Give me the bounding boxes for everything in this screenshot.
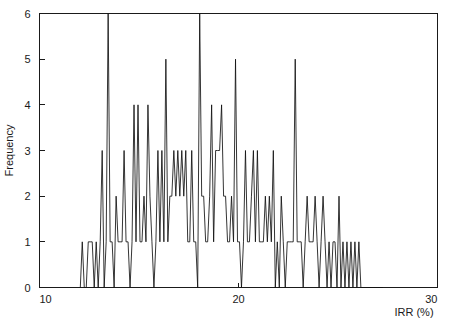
y-tick-label-1: 1 xyxy=(24,236,30,248)
y-tick-label-3: 3 xyxy=(24,145,30,157)
y-tick-label-6: 6 xyxy=(24,8,30,20)
y-tick-label-4: 4 xyxy=(24,99,30,111)
y-axis-title: Frequency xyxy=(3,124,15,176)
x-axis-ticks xyxy=(40,283,438,288)
irr-frequency-chart: 0123456 102030 Frequency IRR (%) xyxy=(0,0,451,322)
chart-container: 0123456 102030 Frequency IRR (%) xyxy=(0,0,451,322)
frequency-polyline xyxy=(80,14,382,288)
y-axis-ticks xyxy=(40,14,45,288)
x-tick-label-30: 30 xyxy=(425,293,437,305)
y-tick-label-0: 0 xyxy=(24,282,30,294)
plot-frame xyxy=(40,14,438,288)
x-axis-title: IRR (%) xyxy=(394,306,433,318)
y-tick-label-5: 5 xyxy=(24,53,30,65)
x-tick-label-20: 20 xyxy=(232,293,244,305)
data-series-group xyxy=(80,14,382,288)
y-tick-label-2: 2 xyxy=(24,190,30,202)
x-axis-tick-labels: 102030 xyxy=(40,293,438,305)
y-axis-tick-labels: 0123456 xyxy=(24,8,30,294)
x-tick-label-10: 10 xyxy=(40,293,52,305)
